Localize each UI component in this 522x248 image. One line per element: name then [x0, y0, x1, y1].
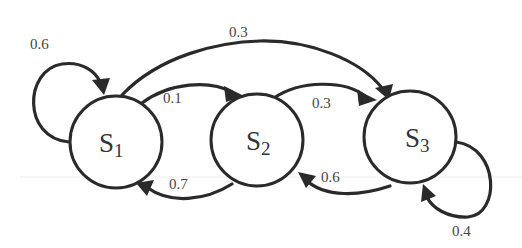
state-node-s2: S2: [211, 94, 303, 186]
state-node-s1: S1: [70, 96, 162, 188]
markov-chain-diagram: 0.6 0.3 0.1 0.3 0.7 0.6 0.4 S1: [0, 0, 522, 248]
edge-s2-s1: 0.7: [136, 176, 232, 199]
arrowhead-icon: [357, 90, 377, 106]
edge-s3-s2: 0.6: [298, 169, 390, 194]
prob-label-s2-s3: 0.3: [312, 95, 331, 111]
arrowhead-icon: [92, 78, 110, 95]
prob-label-s1-s3: 0.3: [229, 24, 248, 40]
prob-label-s3-s3: 0.4: [452, 223, 471, 239]
prob-label-s2-s1: 0.7: [169, 176, 188, 192]
prob-label-s3-s2: 0.6: [321, 169, 340, 185]
prob-label-s1-s2: 0.1: [163, 90, 182, 106]
state-node-s3: S3: [364, 91, 456, 183]
prob-label-s1-s1: 0.6: [30, 36, 49, 52]
